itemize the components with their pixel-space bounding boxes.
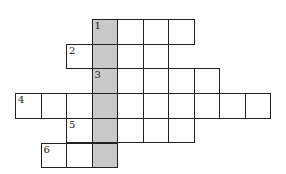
clue-number: 3 bbox=[95, 69, 101, 81]
clue-number: 5 bbox=[69, 119, 75, 131]
crossword-cell[interactable] bbox=[168, 118, 195, 144]
clue-number: 6 bbox=[44, 144, 50, 156]
crossword-cell-shaded[interactable] bbox=[92, 93, 119, 119]
crossword-cell[interactable] bbox=[168, 93, 195, 119]
clue-number: 2 bbox=[69, 45, 75, 57]
crossword-cell[interactable] bbox=[66, 93, 93, 119]
crossword-cell[interactable] bbox=[41, 93, 68, 119]
crossword-cell[interactable] bbox=[117, 44, 144, 70]
crossword-cell[interactable] bbox=[66, 143, 93, 169]
crossword-cell[interactable] bbox=[194, 93, 221, 119]
crossword-cell[interactable]: 4 bbox=[15, 93, 42, 119]
clue-number: 4 bbox=[18, 94, 24, 106]
crossword-cell[interactable] bbox=[117, 68, 144, 94]
crossword-cell[interactable] bbox=[219, 93, 246, 119]
crossword-cell[interactable] bbox=[143, 118, 170, 144]
crossword-grid: 123456 bbox=[0, 0, 286, 174]
crossword-cell-shaded[interactable] bbox=[92, 143, 119, 169]
crossword-cell[interactable] bbox=[143, 68, 170, 94]
crossword-cell[interactable] bbox=[117, 19, 144, 45]
crossword-cell[interactable]: 5 bbox=[66, 118, 93, 144]
crossword-cell[interactable] bbox=[117, 118, 144, 144]
crossword-cell[interactable]: 2 bbox=[66, 44, 93, 70]
crossword-cell[interactable] bbox=[245, 93, 272, 119]
crossword-cell-shaded[interactable] bbox=[92, 118, 119, 144]
crossword-cell-shaded[interactable] bbox=[92, 44, 119, 70]
crossword-cell[interactable] bbox=[143, 44, 170, 70]
crossword-cell[interactable] bbox=[117, 93, 144, 119]
crossword-cell[interactable] bbox=[168, 68, 195, 94]
clue-number: 1 bbox=[95, 20, 101, 32]
crossword-cell[interactable] bbox=[194, 68, 221, 94]
crossword-cell-shaded[interactable]: 3 bbox=[92, 68, 119, 94]
crossword-cell[interactable] bbox=[168, 19, 195, 45]
crossword-cell[interactable] bbox=[143, 93, 170, 119]
crossword-cell-shaded[interactable]: 1 bbox=[92, 19, 119, 45]
crossword-cell[interactable]: 6 bbox=[41, 143, 68, 169]
crossword-cell[interactable] bbox=[143, 19, 170, 45]
